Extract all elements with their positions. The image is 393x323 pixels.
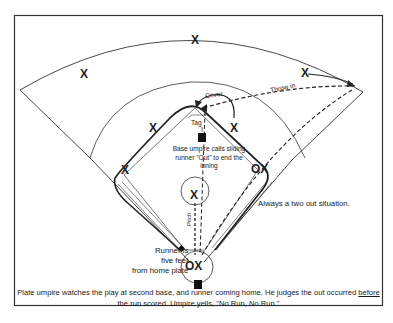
base-umpire-marker <box>198 133 206 142</box>
caption-part-1: Plate umpire watches the play at second … <box>17 288 358 297</box>
tag-label: Tag <box>191 119 202 127</box>
first-base-pair-marker: OX <box>251 163 268 177</box>
runner-note-line-1: Runner is <box>132 246 188 256</box>
second-baseman-marker: X <box>230 122 238 136</box>
runner-path <box>115 106 268 250</box>
outfield-fence <box>20 40 363 92</box>
pitcher-marker: X <box>190 189 198 203</box>
pitch-label: Pitch <box>186 213 193 226</box>
third-baseman-marker: X <box>121 164 129 178</box>
diagram-caption: Plate umpire watches the play at second … <box>16 287 381 309</box>
base-umpire-note: Base umpire calls sliding runner "Out" t… <box>170 145 248 171</box>
runner-path-home <box>115 178 180 250</box>
center-fielder-marker: X <box>191 34 199 48</box>
caption-underlined: before <box>358 288 380 297</box>
runner-note-line-3: from home plate <box>132 266 188 276</box>
right-fielder-marker: X <box>301 67 309 81</box>
left-foul-line-outer <box>20 90 90 158</box>
shortstop-marker: X <box>149 122 157 136</box>
situation-note: Always a two out situation. <box>258 200 350 209</box>
right-foul-line-outer <box>292 92 363 160</box>
diagram-canvas: X X X X X X X OX OX Cover Throw in Tag P… <box>0 0 393 323</box>
runner-note: Runner is five feet from home plate <box>132 246 188 276</box>
left-fielder-marker: X <box>80 68 88 82</box>
caption-part-2: the run scored. Umpire yells, "No Run, N… <box>118 299 280 308</box>
runner-note-line-2: five feet <box>132 256 188 266</box>
